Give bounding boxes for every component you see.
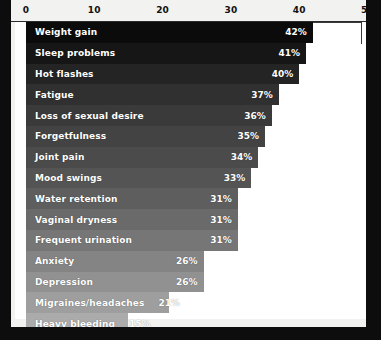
bar-value-label: 31% bbox=[210, 194, 232, 204]
bar[interactable]: Joint pain34% bbox=[26, 147, 258, 168]
bar-row[interactable]: Migraines/headaches21% bbox=[15, 292, 366, 313]
bar[interactable]: Forgetfulness35% bbox=[26, 126, 265, 147]
bar-category-label: Anxiety bbox=[35, 256, 74, 266]
bar[interactable]: Depression26% bbox=[26, 272, 204, 293]
x-axis: 01020304050 bbox=[11, 0, 366, 22]
bar-value-label: 26% bbox=[176, 256, 198, 266]
bar[interactable]: Loss of sexual desire36% bbox=[26, 105, 272, 126]
bar-value-label: 31% bbox=[210, 235, 232, 245]
bar-value-label: 41% bbox=[278, 48, 300, 58]
bar-value-label: 40% bbox=[272, 69, 294, 79]
bar-category-label: Joint pain bbox=[35, 152, 84, 162]
bar-category-label: Frequent urination bbox=[35, 235, 132, 245]
bar-category-label: Hot flashes bbox=[35, 69, 94, 79]
bar-value-label: 42% bbox=[285, 27, 307, 37]
bar-category-label: Weight gain bbox=[35, 27, 97, 37]
bar-value-label: 21% bbox=[158, 298, 180, 308]
bar-value-label: 36% bbox=[244, 111, 266, 121]
bar-category-label: Depression bbox=[35, 277, 93, 287]
bar-row[interactable]: Anxiety26% bbox=[15, 251, 366, 272]
bar-row[interactable]: Vaginal dryness31% bbox=[15, 209, 366, 230]
bar-category-label: Forgetfulness bbox=[35, 131, 106, 141]
bar-row[interactable]: Sleep problems41% bbox=[15, 43, 366, 64]
bar-row[interactable]: Frequent urination31% bbox=[15, 230, 366, 251]
plot-area: Weight gain42%Sleep problems41%Hot flash… bbox=[15, 22, 366, 319]
bar-value-label: 31% bbox=[210, 215, 232, 225]
x-axis-tick-0: 0 bbox=[23, 5, 29, 15]
chart-frame: 01020304050 Weight gain42%Sleep problems… bbox=[0, 0, 381, 340]
bar-category-label: Migraines/headaches bbox=[35, 298, 144, 308]
bar-value-label: 37% bbox=[251, 90, 273, 100]
bar[interactable]: Anxiety26% bbox=[26, 251, 204, 272]
left-gutter bbox=[0, 0, 11, 340]
x-axis-tick-40: 40 bbox=[293, 5, 306, 15]
bar-row[interactable]: Weight gain42% bbox=[15, 22, 366, 43]
bar-category-label: Fatigue bbox=[35, 90, 74, 100]
bar-row[interactable]: Forgetfulness35% bbox=[15, 126, 366, 147]
bar-row[interactable]: Hot flashes40% bbox=[15, 64, 366, 85]
bar-value-label: 33% bbox=[224, 173, 246, 183]
bar-row[interactable]: Water retention31% bbox=[15, 188, 366, 209]
bar-row[interactable]: Depression26% bbox=[15, 272, 366, 293]
bar-category-label: Mood swings bbox=[35, 173, 102, 183]
bar[interactable]: Sleep problems41% bbox=[26, 43, 306, 64]
bar-value-label: 26% bbox=[176, 277, 198, 287]
bar-value-label: 34% bbox=[231, 152, 253, 162]
bar[interactable]: Migraines/headaches21% bbox=[26, 292, 169, 313]
bar-row[interactable]: Loss of sexual desire36% bbox=[15, 105, 366, 126]
bar[interactable]: Water retention31% bbox=[26, 188, 238, 209]
bar-row[interactable]: Joint pain34% bbox=[15, 147, 366, 168]
x-axis-tick-10: 10 bbox=[88, 5, 101, 15]
bar[interactable]: Weight gain42% bbox=[26, 22, 313, 43]
x-axis-tick-20: 20 bbox=[156, 5, 169, 15]
bar-category-label: Vaginal dryness bbox=[35, 215, 117, 225]
right-gutter bbox=[366, 0, 381, 340]
bar[interactable]: Frequent urination31% bbox=[26, 230, 238, 251]
bar-row[interactable]: Mood swings33% bbox=[15, 168, 366, 189]
bar-value-label: 35% bbox=[238, 131, 260, 141]
x-axis-tick-30: 30 bbox=[224, 5, 237, 15]
bar[interactable]: Vaginal dryness31% bbox=[26, 209, 238, 230]
bar-category-label: Sleep problems bbox=[35, 48, 115, 58]
bottom-gutter bbox=[0, 327, 381, 340]
bar-row[interactable]: Fatigue37% bbox=[15, 84, 366, 105]
bar[interactable]: Hot flashes40% bbox=[26, 64, 299, 85]
bar[interactable]: Fatigue37% bbox=[26, 84, 279, 105]
bar-category-label: Water retention bbox=[35, 194, 118, 204]
bar-category-label: Loss of sexual desire bbox=[35, 111, 144, 121]
bar[interactable]: Mood swings33% bbox=[26, 168, 251, 189]
